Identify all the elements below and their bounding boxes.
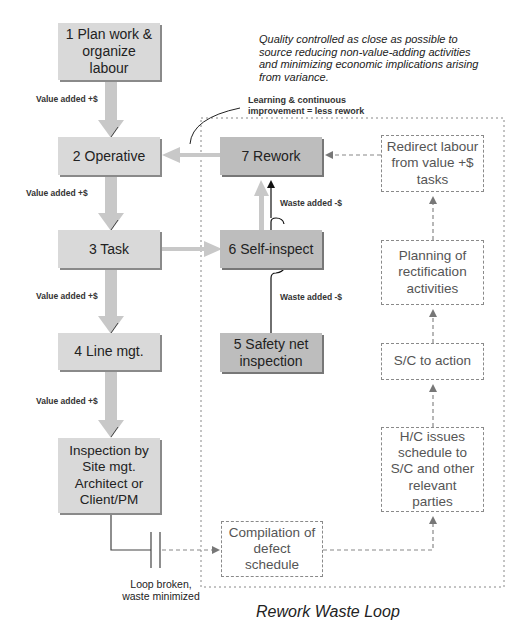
value-added-label: Value added +$ xyxy=(36,291,98,301)
box-line-mgt: 4 Line mgt. xyxy=(58,333,160,370)
learning-label: Learning & continuous improvement = less… xyxy=(248,95,378,117)
box-operative: 2 Operative xyxy=(58,137,160,175)
quality-note: Quality controlled as close as possible … xyxy=(259,33,489,84)
box-rework: 7 Rework xyxy=(220,137,322,175)
inspection-to-break xyxy=(111,513,151,550)
waste-added-label: Waste added -$ xyxy=(280,292,342,302)
value-added-label: Value added +$ xyxy=(36,396,98,406)
waste-added-label: Waste added -$ xyxy=(280,198,342,208)
diagram-title: Rework Waste Loop xyxy=(256,603,400,621)
box-safety-net-inspection: 5 Safety net inspection xyxy=(220,333,322,372)
loop-broken-label: Loop broken, waste minimized xyxy=(118,578,204,602)
box-hc-issues-schedule: H/C issues schedule to S/C and other rel… xyxy=(381,427,484,512)
box-self-inspect: 6 Self-inspect xyxy=(220,230,322,268)
box-plan-work: 1 Plan work & organize labour xyxy=(58,23,160,80)
box-sc-to-action: S/C to action xyxy=(381,343,484,380)
box-planning-rectification: Planning of rectification activities xyxy=(381,240,484,305)
rework-waste-loop-diagram: Quality controlled as close as possible … xyxy=(0,0,529,639)
value-added-label: Value added +$ xyxy=(36,94,98,104)
box-task: 3 Task xyxy=(58,230,160,268)
box-inspection: Inspection by Site mgt. Architect or Cli… xyxy=(58,438,160,513)
value-added-label: Value added +$ xyxy=(26,188,88,198)
box-compilation-defect-schedule: Compilation of defect schedule xyxy=(221,521,323,577)
box-redirect-labour: Redirect labour from value +$ tasks xyxy=(381,135,484,192)
